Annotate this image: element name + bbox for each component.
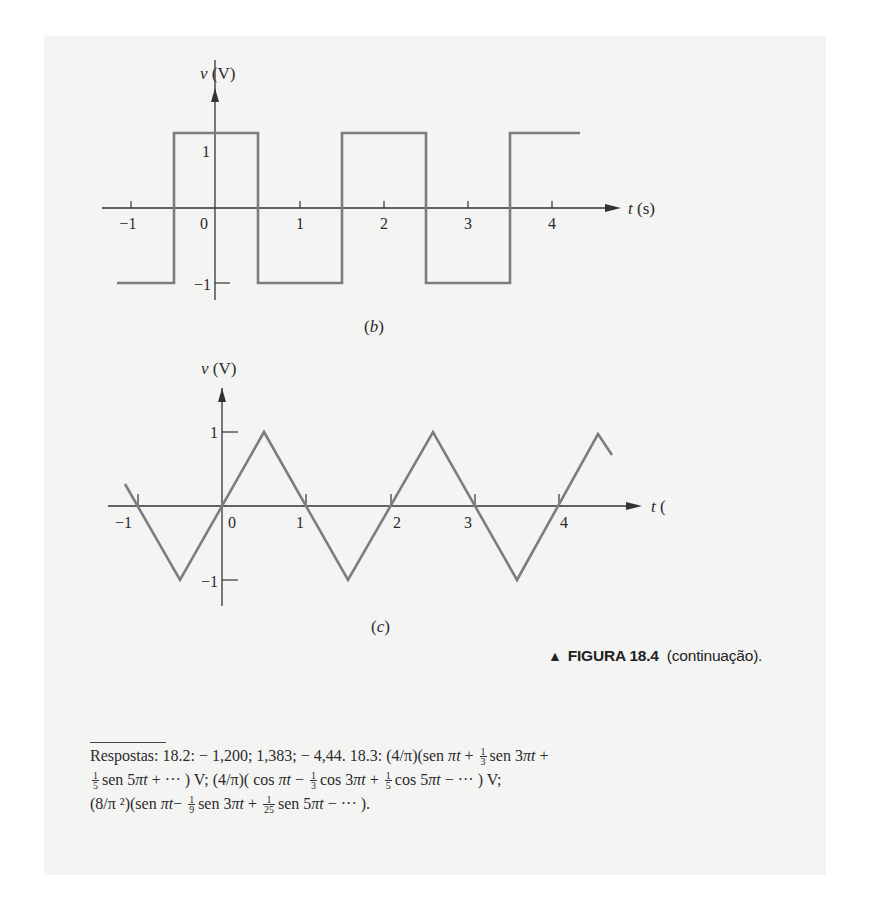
chart-c-x-tick-labels: −1 0 1 2 3 4 [115,514,568,531]
fraction: 19 [188,795,195,814]
svg-text:3: 3 [464,215,472,232]
svg-text:4: 4 [548,215,556,232]
fraction: 125 [263,795,275,814]
answers-footnote: Respostas: 18.2: − 1,200; 1,383; − 4,44.… [90,744,730,816]
svg-text:1: 1 [296,514,304,531]
svg-text:3: 3 [464,514,472,531]
figure-caption: ▲FIGURA 18.4(continuação). [548,647,762,665]
svg-text:−1: −1 [194,276,211,293]
chart-c-y-tick-labels: 1 −1 [201,424,218,590]
svg-text:−1: −1 [119,215,136,232]
chart-b-y-arrow-icon [211,88,219,102]
footnote-rule [90,742,166,743]
fraction: 15 [92,771,99,790]
fraction: 15 [385,771,392,790]
svg-text:0: 0 [200,215,208,232]
chart-b-xlabel: t (s) [628,199,655,218]
triangle-marker-icon: ▲ [548,648,562,664]
chart-c-xlabel: t ( [651,497,666,516]
answers-line-1: Respostas: 18.2: − 1,200; 1,383; − 4,44.… [90,744,730,768]
chart-b-ylabel: v (V) [200,64,235,83]
svg-text:1: 1 [296,215,304,232]
svg-text:1: 1 [210,424,218,441]
answers-line-2: 15sen 5πt + ··· ) V; (4/π)( cos πt − 13c… [90,768,730,792]
fraction: 13 [480,747,487,766]
chart-c-ylabel: v (V) [201,359,236,378]
figure-number: FIGURA 18.4 [568,647,659,664]
svg-text:2: 2 [380,215,388,232]
chart-c: v (V) t ( −1 0 1 2 3 4 1 −1 (c) [108,359,666,636]
chart-b-x-tick-labels: −1 0 1 2 3 4 [119,215,556,232]
chart-b-x-arrow-icon [605,204,621,212]
figure-note: (continuação). [667,647,762,664]
answers-line-3: (8/π ²)(sen πt− 19sen 3πt + 125sen 5πt −… [90,792,730,816]
svg-text:2: 2 [393,514,401,531]
chart-c-x-ticks [138,494,559,506]
svg-text:1: 1 [202,143,210,160]
svg-text:0: 0 [228,514,236,531]
chart-c-panel-label: (c) [371,617,390,636]
chart-b: v (V) t (s) −1 0 1 2 3 4 1 −1 [102,60,655,336]
chart-c-y-arrow-icon [218,388,226,402]
svg-text:−1: −1 [115,514,132,531]
fraction: 13 [310,771,317,790]
chart-b-panel-label: (b) [364,317,384,336]
chart-c-x-arrow-icon [626,502,642,510]
svg-text:4: 4 [560,514,568,531]
svg-text:−1: −1 [201,573,218,590]
